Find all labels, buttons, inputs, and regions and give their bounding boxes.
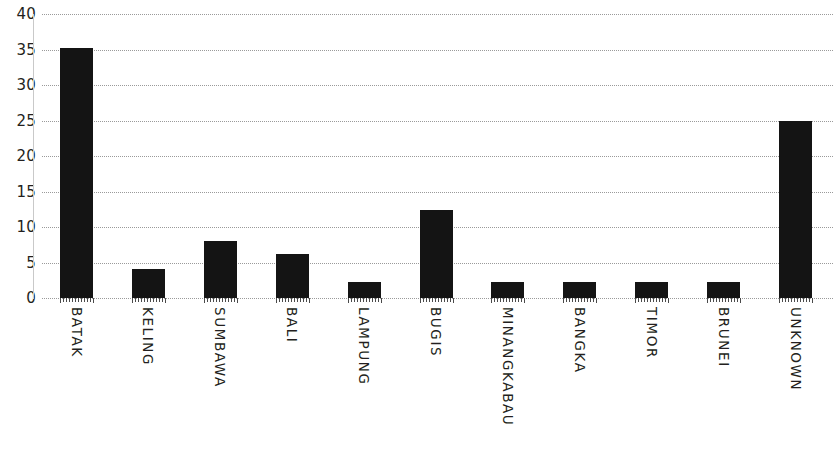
x-axis-tick	[81, 298, 82, 302]
x-axis-tick	[444, 298, 445, 302]
x-axis-tick	[491, 298, 492, 302]
bar[interactable]	[563, 282, 596, 298]
x-axis-tick	[782, 298, 783, 302]
x-axis-tick	[159, 298, 160, 302]
x-axis-tick-label: TIMOR	[644, 307, 660, 359]
bar[interactable]	[348, 282, 381, 298]
x-axis-tick	[788, 298, 789, 302]
bar[interactable]	[276, 254, 309, 298]
x-axis-tick	[84, 298, 85, 302]
x-axis-tick	[426, 298, 427, 302]
x-axis-label-slot: TIMOR	[635, 303, 668, 453]
x-axis-tick	[656, 298, 657, 302]
x-axis-tick-label: SUMBAWA	[212, 307, 228, 388]
x-axis-tick	[357, 298, 358, 302]
x-axis-tick-label: KELING	[140, 307, 156, 366]
x-axis-tick	[447, 298, 448, 302]
bar[interactable]	[779, 121, 812, 299]
x-axis-tick	[375, 298, 376, 302]
x-axis-tick	[354, 298, 355, 302]
x-axis-tick	[66, 298, 67, 302]
x-axis-label-slot: BANGKA	[563, 303, 596, 453]
x-axis-tick	[785, 298, 786, 302]
x-axis-tick	[575, 298, 576, 302]
x-axis-tick	[291, 298, 292, 302]
x-axis-tick	[713, 298, 714, 302]
x-axis-tick	[288, 298, 289, 302]
x-axis-tick	[297, 298, 298, 302]
bar[interactable]	[204, 241, 237, 299]
x-axis-tick	[72, 298, 73, 302]
x-axis-tick	[225, 298, 226, 302]
x-axis-tick	[219, 298, 220, 302]
bar[interactable]	[635, 282, 668, 298]
x-axis-label-slot: BALI	[276, 303, 309, 453]
x-axis-label-slot: UNKNOWN	[779, 303, 812, 453]
bar[interactable]	[60, 48, 93, 298]
x-axis-tick	[503, 298, 504, 302]
x-axis-tick	[794, 298, 795, 302]
bar-chart: 0510152025303540 BATAKKELINGSUMBAWABALIL…	[0, 0, 839, 453]
x-axis-tick	[453, 298, 454, 302]
x-axis-tick	[132, 298, 133, 302]
x-axis-tick	[524, 298, 525, 302]
x-axis-tick	[276, 298, 277, 302]
x-axis-tick	[500, 298, 501, 302]
bar[interactable]	[132, 269, 165, 298]
x-axis-tick	[309, 298, 310, 302]
gridline	[42, 14, 833, 15]
x-axis-tick	[710, 298, 711, 302]
gridline	[42, 85, 833, 86]
x-axis-tick-label: BUGIS	[428, 307, 444, 357]
x-axis-tick	[144, 298, 145, 302]
x-axis-tick	[204, 298, 205, 302]
x-axis-tick	[809, 298, 810, 302]
x-axis-tick	[207, 298, 208, 302]
x-axis-tick	[279, 298, 280, 302]
x-axis-tick	[435, 298, 436, 302]
x-axis-tick	[294, 298, 295, 302]
x-axis-label-slot: BRUNEI	[707, 303, 740, 453]
x-axis-label-slot: BUGIS	[420, 303, 453, 453]
x-axis-tick	[779, 298, 780, 302]
x-axis-tick	[306, 298, 307, 302]
bar[interactable]	[491, 282, 524, 298]
x-axis-tick	[731, 298, 732, 302]
x-axis-tick	[300, 298, 301, 302]
x-axis-tick	[351, 298, 352, 302]
x-axis-tick	[521, 298, 522, 302]
x-axis-tick	[423, 298, 424, 302]
x-axis-tick	[285, 298, 286, 302]
x-axis-tick	[90, 298, 91, 302]
x-axis-tick	[722, 298, 723, 302]
x-axis-tick	[653, 298, 654, 302]
x-axis-tick	[87, 298, 88, 302]
x-axis-tick	[641, 298, 642, 302]
x-axis-tick	[165, 298, 166, 302]
x-axis-tick	[563, 298, 564, 302]
x-axis-tick	[797, 298, 798, 302]
plot-area	[42, 14, 833, 298]
x-axis-tick	[659, 298, 660, 302]
x-axis-tick	[381, 298, 382, 302]
x-axis-tick	[210, 298, 211, 302]
x-axis-tick	[75, 298, 76, 302]
x-axis-tick	[518, 298, 519, 302]
y-axis: 0510152025303540	[0, 0, 36, 453]
x-axis-tick	[69, 298, 70, 302]
x-axis-tick	[494, 298, 495, 302]
x-axis-tick	[512, 298, 513, 302]
bar[interactable]	[420, 210, 453, 298]
x-axis-tick	[650, 298, 651, 302]
x-axis-label-slot: KELING	[132, 303, 165, 453]
x-axis-tick	[216, 298, 217, 302]
y-axis-tick-label: 0	[26, 289, 36, 307]
x-axis-tick	[707, 298, 708, 302]
x-axis-tick-label: BANGKA	[572, 307, 588, 374]
x-axis-tick	[665, 298, 666, 302]
x-axis-tick	[800, 298, 801, 302]
bar[interactable]	[707, 282, 740, 298]
x-axis-tick	[63, 298, 64, 302]
x-axis-tick	[153, 298, 154, 302]
x-axis-tick	[647, 298, 648, 302]
